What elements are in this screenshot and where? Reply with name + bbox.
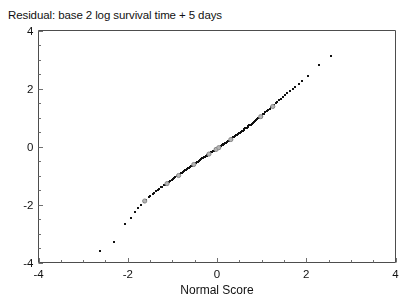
qq-plot-figure: Residual: base 2 log survival time + 5 d… bbox=[0, 0, 419, 301]
x-axis-tick-label: 4 bbox=[392, 268, 398, 280]
plot-canvas bbox=[0, 0, 419, 301]
x-axis-tick-label: -2 bbox=[123, 268, 133, 280]
y-axis-tick-label: 4 bbox=[0, 25, 34, 37]
x-axis-tick-label: -4 bbox=[33, 268, 43, 280]
y-axis-tick-label: -2 bbox=[0, 199, 34, 211]
x-axis-title: Normal Score bbox=[180, 283, 253, 297]
y-axis-tick-label: -4 bbox=[0, 257, 34, 269]
y-axis-tick-label: 2 bbox=[0, 83, 34, 95]
x-axis-tick-label: 2 bbox=[303, 268, 309, 280]
y-axis-tick-label: 0 bbox=[0, 141, 34, 153]
x-axis-tick-label: 0 bbox=[214, 268, 220, 280]
